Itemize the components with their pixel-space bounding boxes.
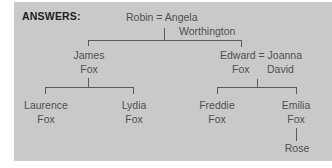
emilia-surname: Fox [278, 112, 314, 126]
node-freddie: Freddie Fox [198, 98, 236, 126]
connector-gen1-bar [88, 40, 242, 41]
node-laurence: Laurence Fox [24, 98, 68, 126]
lydia-surname: Fox [118, 112, 150, 126]
laurence-first: Laurence [24, 98, 68, 112]
angela-surname: Worthington [126, 24, 235, 38]
answers-title: ANSWERS: [22, 10, 81, 22]
freddie-surname: Fox [198, 112, 236, 126]
connector-james-bar [45, 87, 134, 88]
connector-edward-bar [217, 87, 297, 88]
connector-to-lydia [133, 87, 134, 94]
node-lydia: Lydia Fox [118, 98, 150, 126]
connector-to-james [88, 40, 89, 46]
connector-to-edward [241, 40, 242, 47]
robin-angela-names: Robin = Angela [126, 10, 235, 24]
lydia-first: Lydia [118, 98, 150, 112]
connector-gen1-mid [164, 35, 165, 40]
freddie-first: Freddie [198, 98, 236, 112]
james-surname: Fox [72, 62, 106, 76]
node-rose: Rose [282, 141, 312, 155]
connector-james-down [88, 78, 89, 87]
emilia-first: Emilia [278, 98, 314, 112]
connector-edward-down [257, 79, 258, 87]
node-james: James Fox [72, 48, 106, 76]
node-edward-joanna: Edward = Joanna Fox David [220, 48, 302, 76]
connector-to-laurence [45, 87, 46, 94]
james-first: James [72, 48, 106, 62]
connector-to-emilia [296, 87, 297, 94]
connector-to-freddie [217, 87, 218, 94]
rose-first: Rose [282, 141, 312, 155]
node-robin-angela: Robin = Angela Worthington [126, 10, 235, 38]
edward-joanna-names: Edward = Joanna [220, 48, 302, 62]
connector-emilia-down [296, 128, 297, 141]
edward-joanna-surnames: Fox David [220, 62, 302, 76]
laurence-surname: Fox [24, 112, 68, 126]
node-emilia: Emilia Fox [278, 98, 314, 126]
